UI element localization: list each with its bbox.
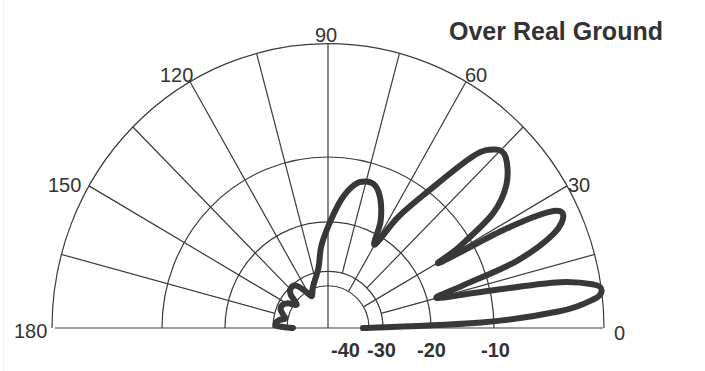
db-label-minus-40: -40 — [331, 339, 360, 361]
chart-title: Over Real Ground — [449, 17, 663, 45]
radiation-pattern-line — [275, 150, 601, 328]
angle-label-120: 120 — [160, 64, 193, 86]
grid-spoke — [61, 254, 274, 313]
grid-spoke — [342, 53, 399, 273]
angle-label-0: 0 — [614, 322, 625, 344]
angle-label-150: 150 — [48, 174, 81, 196]
db-label-minus-20: -20 — [417, 339, 446, 361]
db-label-minus-10: -10 — [481, 339, 510, 361]
grid-spoke — [133, 127, 289, 288]
grid-spoke — [257, 53, 314, 273]
angle-label-90: 90 — [315, 24, 337, 46]
db-label-minus-30: -30 — [367, 339, 396, 361]
polar-chart: Over Real Ground 90 120 60 150 30 180 0 … — [0, 0, 705, 371]
angle-label-60: 60 — [465, 64, 487, 86]
angle-label-30: 30 — [568, 174, 590, 196]
angle-label-180: 180 — [14, 320, 47, 342]
